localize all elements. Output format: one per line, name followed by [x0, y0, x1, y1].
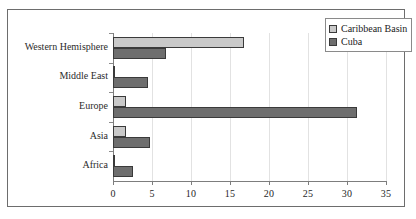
- legend-item[interactable]: Caribbean Basin: [329, 22, 407, 35]
- x-axis-label: 0: [93, 188, 133, 199]
- bar-caribbean-basin: [113, 37, 244, 48]
- x-axis-label: 30: [327, 188, 367, 199]
- x-axis-label: 20: [249, 188, 289, 199]
- legend-swatch-icon: [329, 25, 337, 33]
- bar-caribbean-basin: [113, 96, 126, 107]
- x-axis-label: 15: [210, 188, 250, 199]
- legend-swatch-icon: [329, 38, 337, 46]
- chart-figure: 05101520253035 Western HemisphereMiddle …: [0, 0, 416, 219]
- bar-caribbean-basin: [113, 126, 126, 137]
- gridline: [386, 33, 387, 181]
- bar-cuba: [113, 166, 133, 177]
- bar-caribbean-basin: [113, 155, 115, 166]
- x-axis-label: 10: [171, 188, 211, 199]
- category-label: Europe: [6, 100, 108, 111]
- chart-legend: Caribbean Basin Cuba: [325, 18, 412, 52]
- category-label: Middle East: [6, 70, 108, 81]
- legend-label: Cuba: [341, 36, 362, 47]
- legend-label: Caribbean Basin: [341, 23, 407, 34]
- plot-area: [113, 33, 386, 181]
- bar-cuba: [113, 107, 357, 118]
- category-label: Africa: [6, 159, 108, 170]
- bar-cuba: [113, 77, 148, 88]
- x-axis-label: 25: [288, 188, 328, 199]
- bar-caribbean-basin: [113, 66, 115, 77]
- legend-item[interactable]: Cuba: [329, 35, 407, 48]
- bar-cuba: [113, 137, 150, 148]
- category-label: Asia: [6, 130, 108, 141]
- x-axis-label: 5: [132, 188, 172, 199]
- bar-cuba: [113, 48, 166, 59]
- x-axis-line: [113, 181, 387, 182]
- x-axis-label: 35: [366, 188, 406, 199]
- category-label: Western Hemisphere: [6, 41, 108, 52]
